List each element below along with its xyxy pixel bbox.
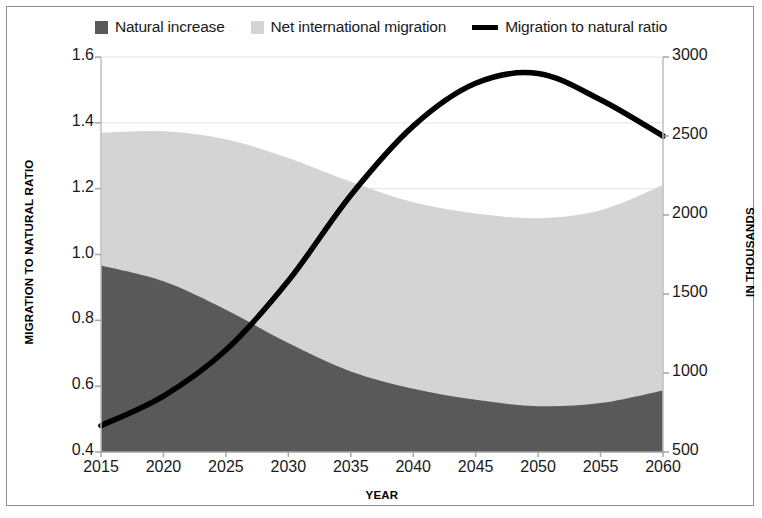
chart-figure: Natural increase Net international migra…: [0, 0, 762, 518]
plot-area: [0, 0, 762, 518]
